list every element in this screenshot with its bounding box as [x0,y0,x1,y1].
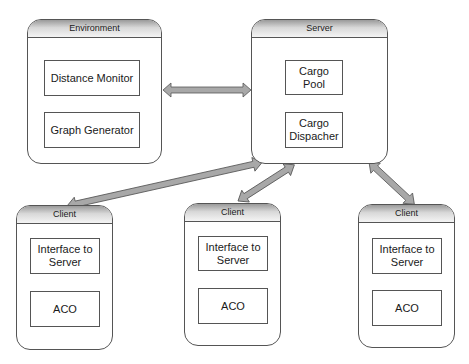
client2-node: Client Interface to Server ACO [184,203,281,346]
client3-aco-component: ACO [372,290,442,326]
server-node: Server Cargo Pool Cargo Dispacher [251,19,388,164]
environment-node: Environment Distance Monitor Graph Gener… [27,19,162,164]
client2-interface-component: Interface to Server [198,236,268,271]
environment-header: Environment [28,20,161,38]
client1-interface-label-line1: Interface to [37,243,92,256]
client1-header: Client [17,206,112,224]
client3-header: Client [359,205,454,223]
client3-interface-component: Interface to Server [372,238,442,274]
client3-node: Client Interface to Server ACO [358,204,455,348]
arrow-environment-server [163,83,251,97]
cargo-dispacher-component: Cargo Dispacher [285,112,343,148]
client1-interface-component: Interface to Server [30,238,100,274]
client1-interface-label-line2: Server [49,256,81,269]
client3-aco-label: ACO [395,302,419,315]
client3-interface-label-line2: Server [391,256,423,269]
graph-generator-label: Graph Generator [50,124,133,137]
cargo-pool-component: Cargo Pool [285,60,343,95]
client1-node: Client Interface to Server ACO [16,205,113,350]
client2-interface-label-line1: Interface to [205,241,260,254]
cargo-pool-label-line1: Cargo [299,65,329,78]
graph-generator-component: Graph Generator [44,112,140,148]
client2-header: Client [185,204,280,222]
distance-monitor-component: Distance Monitor [44,60,140,96]
server-header: Server [252,20,387,38]
cargo-pool-label-line2: Pool [303,78,325,91]
client1-aco-component: ACO [30,291,100,327]
cargo-dispacher-label-line2: Dispacher [289,130,339,143]
arrow-server-client3 [364,157,419,210]
cargo-dispacher-label-line1: Cargo [299,117,329,130]
client2-aco-label: ACO [221,300,245,313]
client2-interface-label-line2: Server [217,254,249,267]
client1-aco-label: ACO [53,303,77,316]
client3-interface-label-line1: Interface to [379,243,434,256]
arrow-server-client2 [234,159,298,207]
client2-aco-component: ACO [198,288,268,324]
distance-monitor-label: Distance Monitor [51,72,134,85]
